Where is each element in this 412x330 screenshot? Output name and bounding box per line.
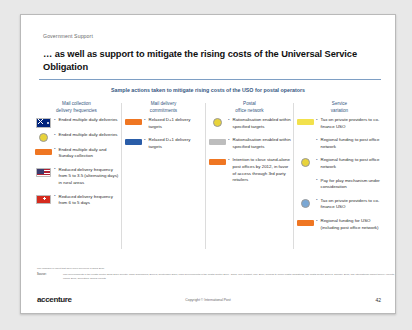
badge-lightblue-icon xyxy=(301,199,310,208)
bullet-text: Ended multiple daily deliveries xyxy=(54,132,120,141)
copyright-text: Copyright © International Post xyxy=(21,298,395,302)
column-header-4: Servicevariation xyxy=(295,101,384,117)
icon-slot xyxy=(207,157,228,165)
badge-blue-icon xyxy=(125,139,142,145)
list-item: Tax on private providers to co-finance U… xyxy=(295,117,384,133)
bullet-text: Rationalisation enabled within specified… xyxy=(228,137,292,153)
list-item: Relaxed D+1 delivery targets xyxy=(123,137,204,153)
content-column-1: Mail collectiondelivery frequenciesEnded… xyxy=(33,101,123,251)
icon-slot xyxy=(295,198,316,208)
bullet-text: Reduced delivery frequency from 5 to 3.5… xyxy=(54,167,120,189)
slide-eyebrow: Government Support xyxy=(43,33,93,39)
column-divider xyxy=(293,103,294,249)
badge-orange2-icon xyxy=(297,220,314,226)
list-item: Tax on private providers to co-finance U… xyxy=(295,198,384,214)
slide-canvas: Government Support … as well as support … xyxy=(20,14,396,314)
list-item: Ended multiple daily and Sunday collecti… xyxy=(33,147,120,163)
bullet-item: Rationalisation enabled within specified… xyxy=(228,117,292,130)
bullet-text: Reduced delivery frequency from 6 to 5 d… xyxy=(54,194,120,210)
list-item: Relaxed D+1 delivery targets xyxy=(123,117,204,133)
title-divider xyxy=(39,79,381,80)
bullet-text: Regional funding for USO (including post… xyxy=(316,218,384,234)
column-header-1: Mail collectiondelivery frequencies xyxy=(33,101,120,117)
icon-slot xyxy=(123,137,144,145)
bullet-item: Relaxed D+1 delivery targets xyxy=(144,117,204,130)
badge-orange-icon xyxy=(35,149,52,155)
bullet-text: Tax on private providers to co-finance U… xyxy=(316,117,384,133)
bullet-item: Pay for play mechanism under considerati… xyxy=(316,178,384,191)
bullet-text: Tax on private providers to co-finance U… xyxy=(316,198,384,214)
list-item: Rationalisation enabled within specified… xyxy=(207,117,292,133)
icon-slot xyxy=(123,117,144,125)
badge-orange-icon xyxy=(125,119,142,125)
content-column-4: ServicevariationTax on private providers… xyxy=(295,101,387,251)
bullet-item: Regional funding to post office network xyxy=(316,137,384,150)
bullet-text: Regional funding to post office network xyxy=(316,157,384,173)
icon-slot xyxy=(33,117,54,128)
bullet-item: Relaxed D+1 delivery targets xyxy=(144,137,204,150)
flag-switzerland-icon xyxy=(36,195,51,205)
bullet-item: Reduced delivery frequency from 5 to 3.5… xyxy=(54,167,120,187)
page-number: 42 xyxy=(375,297,381,303)
bullet-item: Rationalisation enabled within specified… xyxy=(228,137,292,150)
bullet-text: Ended multiple daily and Sunday collecti… xyxy=(54,147,120,163)
list-item: Regional funding to post office network xyxy=(295,157,384,173)
content-columns: Mail collectiondelivery frequenciesEnded… xyxy=(33,101,387,251)
icon-slot xyxy=(207,137,228,145)
column-header-3: Postaloffice network xyxy=(207,101,292,117)
source-note: The changes in effect that have been del… xyxy=(37,267,381,271)
flag-usa-icon xyxy=(36,168,51,178)
icon-slot xyxy=(295,137,316,138)
bullet-text: Relaxed D+1 delivery targets xyxy=(144,117,204,133)
badge-yellow-icon xyxy=(213,118,222,127)
icon-slot xyxy=(33,132,54,142)
bullet-item: Reduced delivery frequency from 6 to 5 d… xyxy=(54,194,120,207)
column-header-2: Mail deliverycommitments xyxy=(123,101,204,117)
bullet-item: Intention to close stand-alone post offi… xyxy=(228,157,292,183)
badge-orange-icon xyxy=(209,159,226,165)
source-label: Source: xyxy=(37,273,47,276)
icon-slot xyxy=(295,157,316,167)
bullet-text: Regional funding to post office network xyxy=(316,137,384,153)
list-item: Pay for play mechanism under considerati… xyxy=(295,178,384,194)
icon-slot xyxy=(33,194,54,205)
source-body: Mail developments in the Postal Sector 2… xyxy=(63,273,396,281)
slide-subtitle: Sample actions taken to mitigate rising … xyxy=(21,87,395,93)
bullet-text: Rationalisation enabled within specified… xyxy=(228,117,292,133)
page-title: … as well as support to mitigate the ris… xyxy=(43,48,379,74)
bullet-item: Regional funding to post office network xyxy=(316,157,384,170)
bullet-text: Ended multiple daily deliveries xyxy=(54,117,120,126)
icon-slot xyxy=(33,167,54,178)
flag-australia-icon xyxy=(36,118,51,128)
content-column-3: Postaloffice networkRationalisation enab… xyxy=(207,101,295,251)
icon-slot xyxy=(295,218,316,226)
badge-yellow-icon xyxy=(297,119,314,125)
bullet-item: Ended multiple daily deliveries xyxy=(54,117,120,124)
list-item: Ended multiple daily deliveries xyxy=(33,132,120,142)
column-divider xyxy=(205,103,206,249)
bullet-item: Tax on private providers to co-finance U… xyxy=(316,198,384,211)
column-divider xyxy=(121,103,122,249)
list-item: Ended multiple daily deliveries xyxy=(33,117,120,128)
badge-grey-icon xyxy=(209,139,226,145)
bullet-text: Pay for play mechanism under considerati… xyxy=(316,178,384,194)
slide-footer: accenture Copyright © International Post… xyxy=(21,291,395,305)
content-column-2: Mail deliverycommitmentsRelaxed D+1 deli… xyxy=(123,101,207,251)
list-item: Intention to close stand-alone post offi… xyxy=(207,157,292,186)
icon-slot xyxy=(33,147,54,155)
list-item: Reduced delivery frequency from 6 to 5 d… xyxy=(33,194,120,210)
list-item: Reduced delivery frequency from 5 to 3.5… xyxy=(33,167,120,189)
bullet-text: Relaxed D+1 delivery targets xyxy=(144,137,204,153)
bullet-item: Tax on private providers to co-finance U… xyxy=(316,117,384,130)
icon-slot xyxy=(295,117,316,125)
icon-slot xyxy=(207,117,228,127)
icon-slot xyxy=(295,178,316,179)
badge-yellow-icon xyxy=(39,133,48,142)
bullet-item: Ended multiple daily deliveries xyxy=(54,132,120,139)
bullet-text: Intention to close stand-alone post offi… xyxy=(228,157,292,186)
list-item: Regional funding to post office network xyxy=(295,137,384,153)
list-item: Regional funding for USO (including post… xyxy=(295,218,384,234)
bullet-item: Ended multiple daily and Sunday collecti… xyxy=(54,147,120,160)
badge-yellow2-icon xyxy=(301,158,310,167)
list-item: Rationalisation enabled within specified… xyxy=(207,137,292,153)
